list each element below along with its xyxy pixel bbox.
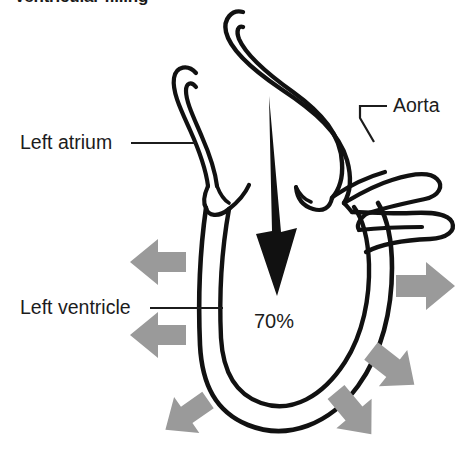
blood-inflow-arrow-group — [256, 96, 297, 296]
heart-diagram-canvas — [0, 0, 462, 462]
expansion-arrow-left-middle — [130, 312, 186, 358]
mitral-valve-leaflet-right — [296, 187, 332, 210]
label-fill-percentage: 70% — [254, 310, 294, 333]
blood-inflow-arrow — [256, 96, 297, 296]
aortic-root-connector — [344, 203, 352, 212]
left-ventricle-inner-wall — [220, 207, 369, 406]
label-left-atrium: Left atrium — [20, 131, 112, 153]
aorta-lower-branch-inner — [359, 227, 422, 230]
left-atrium-outer-wall — [225, 11, 349, 203]
left-atrium-inner-wall — [238, 27, 343, 198]
label-left-ventricle: Left ventricle — [20, 296, 131, 318]
heart-outline-group — [174, 11, 453, 431]
expansion-arrow-right — [396, 262, 455, 310]
expansion-arrow-left-upper — [130, 239, 186, 285]
mitral-valve-leaflet-left-inner — [217, 186, 229, 203]
leader-line-aorta — [360, 106, 387, 142]
ventricular-filling-figure: Ventricular filling — [0, 0, 462, 462]
label-aorta: Aorta — [393, 94, 440, 116]
expansion-arrows-group — [130, 239, 455, 449]
atrium-chamber-left-flank — [204, 186, 208, 208]
